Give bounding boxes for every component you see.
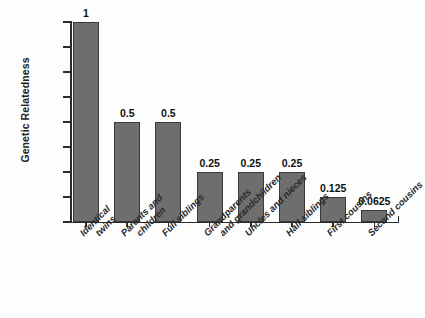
- y-axis-line: [70, 21, 72, 223]
- y-tick-mark: [63, 46, 70, 48]
- y-tick-mark: [63, 121, 70, 123]
- y-tick-mark: [63, 71, 70, 73]
- y-tick-mark: [63, 171, 70, 173]
- bar: [73, 22, 99, 222]
- bar: [114, 122, 140, 222]
- y-axis-title: Genetic Relatedness: [19, 25, 31, 195]
- y-tick-mark: [63, 146, 70, 148]
- y-tick-mark: [63, 196, 70, 198]
- y-tick-mark: [63, 96, 70, 98]
- bar-value-label: 1: [56, 7, 116, 19]
- y-tick-mark: [63, 221, 70, 223]
- bar-value-label: 0.125: [303, 182, 363, 194]
- y-tick-mark: [63, 21, 70, 23]
- bar-value-label: 0.5: [138, 107, 198, 119]
- x-axis-end-cap: [398, 216, 400, 223]
